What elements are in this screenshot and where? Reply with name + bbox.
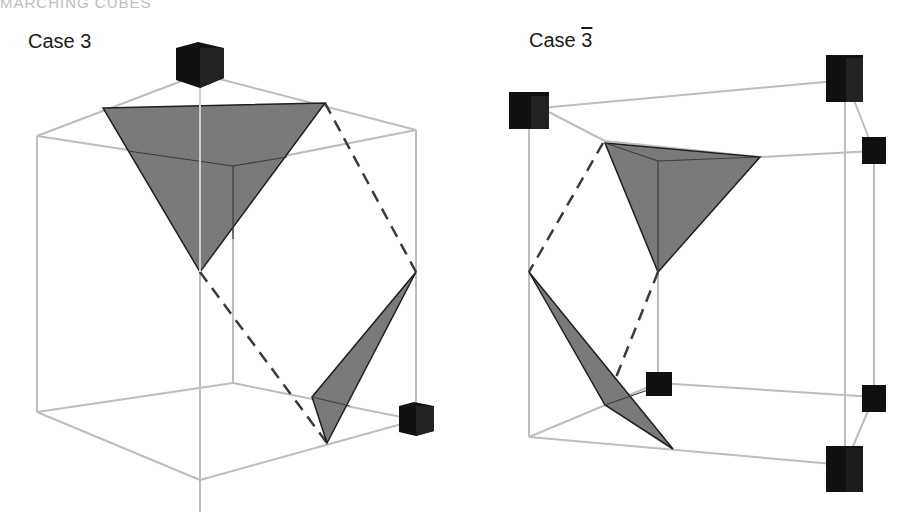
- case-3-cube: [37, 42, 434, 512]
- case-3-complement-cube: [509, 55, 886, 492]
- case-3-complement-vertex-marker-bottom-right: [862, 385, 886, 412]
- case-3-complement-lower-triangle: [529, 272, 673, 449]
- case-3-complement-vertex-marker-bottom-mid: [646, 372, 672, 396]
- case-3-complement-vertex-marker-top-left: [509, 92, 549, 129]
- case-3-top-vertex-marker: [176, 42, 224, 88]
- case-3-bottom-vertex-marker: [399, 402, 434, 436]
- case-3-complement-upper-triangle: [605, 143, 760, 272]
- case-3-complement-vertex-marker-top-right: [826, 55, 863, 102]
- case-3-complement-vertex-marker-bottom-front: [826, 446, 863, 492]
- case-3-upper-triangle: [103, 103, 325, 272]
- case-3-complement-cube-edges: [529, 80, 874, 465]
- case-3-complement-vertex-marker-mid-right: [862, 137, 886, 164]
- marching-cubes-diagram: [0, 0, 911, 512]
